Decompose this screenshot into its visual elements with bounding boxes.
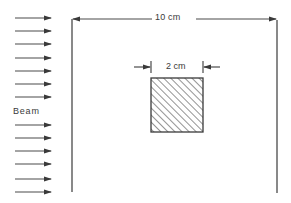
beam-label: Beam bbox=[13, 106, 40, 116]
plate-width-label: 10 cm bbox=[152, 12, 184, 22]
beam-arrows bbox=[15, 18, 51, 192]
target-square bbox=[151, 78, 203, 132]
target-width-label: 2 cm bbox=[166, 61, 186, 71]
beam-target-diagram bbox=[0, 0, 291, 203]
